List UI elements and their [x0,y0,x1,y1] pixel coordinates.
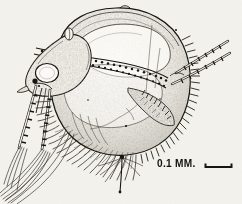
scale-bar-label: 0.1 MM. [157,157,195,169]
figure-plate: 0.1 MM. [0,0,242,204]
compound-eye [36,64,59,83]
ocellus [65,28,73,40]
rostrum [17,86,29,92]
scale-bar [205,164,232,169]
illustration-canvas [0,0,242,204]
swimming-setae [0,130,74,204]
